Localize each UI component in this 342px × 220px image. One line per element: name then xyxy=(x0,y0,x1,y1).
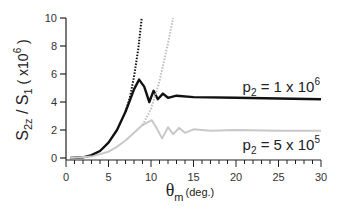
svg-text:0: 0 xyxy=(51,152,57,164)
svg-text:8: 8 xyxy=(51,40,57,52)
chart: 0246810 051015202530 S2z / S1 ( x106 ) θ… xyxy=(0,0,342,220)
svg-text:25: 25 xyxy=(272,171,284,183)
svg-text:0: 0 xyxy=(63,171,69,183)
annotation-p2-5e5: p2 = 5 x 105 xyxy=(243,134,321,156)
svg-text:30: 30 xyxy=(315,171,327,183)
svg-text:10: 10 xyxy=(45,12,57,24)
svg-text:20: 20 xyxy=(230,171,242,183)
x-ticks: 051015202530 xyxy=(63,160,327,183)
series-line-3 xyxy=(143,18,174,125)
y-axis-title: S2z / S1 ( x106 ) xyxy=(12,39,34,141)
svg-text:S2z / S1 ( x106 ): S2z / S1 ( x106 ) xyxy=(12,39,34,141)
svg-text:10: 10 xyxy=(145,171,157,183)
svg-text:5: 5 xyxy=(105,171,111,183)
y-ticks: 0246810 xyxy=(45,12,66,164)
svg-text:p2 = 1 x 106: p2 = 1 x 106 xyxy=(243,76,321,98)
annotation-p2-1e6: p2 = 1 x 106 xyxy=(243,76,321,98)
series-line-1 xyxy=(126,18,142,112)
svg-text:2: 2 xyxy=(51,124,57,136)
x-axis-title: θm(deg.) xyxy=(166,180,215,203)
svg-text:θm(deg.): θm(deg.) xyxy=(166,180,215,203)
svg-text:4: 4 xyxy=(51,96,57,108)
svg-text:6: 6 xyxy=(51,68,57,80)
svg-text:p2 = 5 x 105: p2 = 5 x 105 xyxy=(243,134,321,156)
svg-text:15: 15 xyxy=(187,171,199,183)
